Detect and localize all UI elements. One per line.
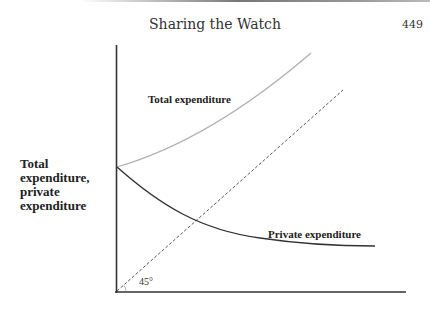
y-label-line: private (20, 185, 89, 199)
y-label-line: expenditure, (20, 171, 89, 185)
angle-label: 45° (139, 276, 153, 287)
y-label-line: expenditure (20, 199, 89, 213)
private-expenditure-label: Private expenditure (268, 228, 361, 240)
total-expenditure-curve (117, 53, 311, 167)
y-axis-label: Total expenditure, private expenditure (20, 157, 89, 213)
total-expenditure-label: Total expenditure (148, 93, 231, 105)
diagonal-45-line (117, 90, 343, 291)
expenditure-diagram (0, 0, 430, 312)
angle-arc (124, 285, 127, 291)
y-label-line: Total (20, 157, 89, 171)
